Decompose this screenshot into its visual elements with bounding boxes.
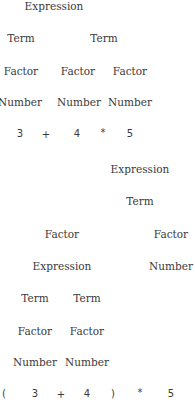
tree2-node-factor: Factor <box>18 326 52 337</box>
tree1-node-factor: Factor <box>61 66 95 77</box>
tree1-node-number: Number <box>57 97 101 108</box>
tree1-token: 5 <box>127 129 133 139</box>
tree2-token: ( <box>2 389 6 399</box>
tree1-node-number: Number <box>0 97 42 108</box>
tree1-node-term: Term <box>90 33 117 44</box>
tree2-node-number: Number <box>13 357 57 368</box>
tree1-node-factor: Factor <box>4 66 38 77</box>
tree2-token: 3 <box>32 389 38 399</box>
tree2-token: ) <box>111 389 115 399</box>
tree1-node-number: Number <box>108 97 152 108</box>
tree2-node-term: Term <box>126 196 153 207</box>
tree1-token: 4 <box>74 129 80 139</box>
tree2-node-term: Term <box>21 293 48 304</box>
tree2-node-factor: Factor <box>154 229 188 240</box>
tree1-node-expression: Expression <box>25 1 84 12</box>
tree2-token: * <box>138 388 143 398</box>
tree1-node-term: Term <box>7 33 34 44</box>
tree2-node-term: Term <box>73 293 100 304</box>
tree2-node-number: Number <box>65 357 109 368</box>
tree2-node-expression: Expression <box>111 164 170 175</box>
tree2-node-number: Number <box>149 261 193 272</box>
tree2-node-factor: Factor <box>45 229 79 240</box>
tree2-token: 4 <box>84 389 90 399</box>
tree2-token: 5 <box>168 389 174 399</box>
tree1-token: * <box>101 128 106 138</box>
tree1-token: 3 <box>17 129 23 139</box>
tree2-node-expression: Expression <box>33 261 92 272</box>
tree1-node-factor: Factor <box>113 66 147 77</box>
tree2-token: + <box>57 390 65 400</box>
tree2-node-factor: Factor <box>70 326 104 337</box>
tree1-token: + <box>42 130 50 140</box>
